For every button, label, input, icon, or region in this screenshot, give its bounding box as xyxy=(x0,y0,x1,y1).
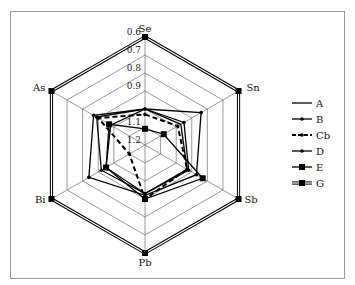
radial-tick-label: 1.1 xyxy=(127,117,141,127)
square-marker xyxy=(161,131,167,137)
legend-item-cb: Cb xyxy=(292,130,330,141)
square-marker xyxy=(236,88,242,94)
square-marker xyxy=(142,196,148,202)
square-marker xyxy=(142,34,148,40)
axis-label-as: As xyxy=(32,82,45,93)
legend-item-e: E xyxy=(292,162,323,173)
legend-item-b: B xyxy=(292,114,323,125)
dot-marker xyxy=(176,124,180,128)
radar-chart: SeSnSbPbBiAs 0.60.70.80.91.11.2 ABCbDEG xyxy=(0,0,355,285)
radial-tick-label: 0.8 xyxy=(127,63,142,73)
square-marker xyxy=(103,165,109,171)
series-a xyxy=(106,109,187,194)
square-marker xyxy=(142,250,148,256)
legend-label: G xyxy=(316,178,324,189)
dot-marker xyxy=(199,111,203,115)
axis-label-pb: Pb xyxy=(138,257,151,268)
radial-tick-label: 0.7 xyxy=(127,45,142,55)
dot-marker xyxy=(143,192,147,196)
legend-label: D xyxy=(316,146,324,157)
axis-label-bi: Bi xyxy=(35,194,46,205)
radial-tick-label: 1.2 xyxy=(127,135,141,145)
dot-marker xyxy=(300,149,304,153)
legend-item-d: D xyxy=(292,146,324,157)
radar-grid xyxy=(51,37,238,253)
legend-item-a: A xyxy=(292,98,324,109)
axis-label-sn: Sn xyxy=(247,82,261,93)
square-marker xyxy=(142,126,148,132)
dot-marker xyxy=(300,133,304,137)
radial-tick-label: 0.6 xyxy=(127,27,142,37)
legend-label: E xyxy=(316,162,323,173)
dot-marker xyxy=(87,176,91,180)
square-marker xyxy=(299,164,305,170)
square-marker xyxy=(106,121,112,127)
square-marker xyxy=(48,88,54,94)
dot-marker xyxy=(182,121,186,125)
square-marker xyxy=(48,196,54,202)
dot-marker xyxy=(187,168,191,172)
radial-tick-label: 0.9 xyxy=(127,81,142,91)
axis-label-sb: Sb xyxy=(245,194,258,205)
square-marker xyxy=(200,175,206,181)
square-marker xyxy=(299,180,305,186)
series-e xyxy=(103,121,206,202)
legend-item-g: G xyxy=(292,178,324,189)
legend-label: A xyxy=(315,98,324,109)
dot-marker xyxy=(143,107,147,111)
legend: ABCbDEG xyxy=(292,98,330,189)
dot-marker xyxy=(128,152,132,156)
dot-marker xyxy=(95,115,99,119)
dot-marker xyxy=(92,114,96,118)
legend-label: B xyxy=(316,114,323,125)
legend-label: Cb xyxy=(316,130,330,141)
dot-marker xyxy=(143,113,147,117)
square-marker xyxy=(236,196,242,202)
dot-marker xyxy=(300,117,304,121)
dot-marker xyxy=(100,168,104,172)
